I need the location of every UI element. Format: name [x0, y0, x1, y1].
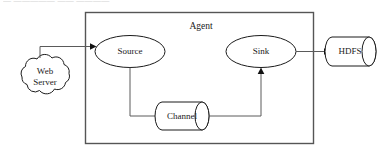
hdfs-cylinder-cap	[362, 37, 376, 66]
arrowhead-to-sink	[258, 68, 265, 75]
channel-label: Channel	[167, 111, 197, 121]
figure-canvas: — ————— —— ———— Agent Web Server Source	[0, 0, 384, 154]
edge-channel-to-sink	[209, 68, 264, 117]
hdfs-label: HDFS	[338, 46, 361, 56]
node-hdfs: HDFS	[325, 37, 376, 66]
sink-label: Sink	[253, 46, 270, 56]
node-web-server: Web Server	[21, 54, 69, 93]
node-source: Source	[95, 36, 165, 68]
channel-cylinder-cap	[195, 102, 209, 130]
node-channel: Channel	[155, 102, 209, 130]
web-server-label-line1: Web	[37, 66, 54, 76]
web-server-label-line2: Server	[33, 77, 57, 87]
source-label: Source	[118, 46, 143, 56]
agent-label: Agent	[189, 21, 213, 31]
flume-architecture-diagram: Agent Web Server Source Channel	[0, 0, 384, 154]
node-sink: Sink	[226, 36, 296, 68]
